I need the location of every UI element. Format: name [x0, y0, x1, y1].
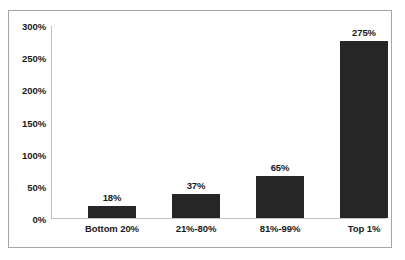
chart-screenshot: 0% 50% 100% 150% 200% 250% 300% 18% Bott… [0, 0, 405, 260]
y-tick-label-100: 100% [22, 149, 46, 160]
plot-area: 0% 50% 100% 150% 200% 250% 300% 18% Bott… [51, 26, 386, 219]
x-tick-label-21-80: 21%-80% [154, 223, 238, 234]
bar-group-21-80: 37% 21%-80% [154, 25, 238, 218]
x-tick-label-81-99: 81%-99% [238, 223, 322, 234]
bar-group-top-1: 275% Top 1% [322, 25, 405, 218]
bar-value-21-80: 37% [154, 180, 238, 191]
bar-21-80[interactable] [172, 194, 220, 218]
y-tick-label-150: 150% [22, 117, 46, 128]
bar-group-bottom-20: 18% Bottom 20% [70, 25, 154, 218]
y-tick-label-50: 50% [27, 181, 46, 192]
bar-value-bottom-20: 18% [70, 192, 154, 203]
bar-group-81-99: 65% 81%-99% [238, 25, 322, 218]
y-tick-label-200: 200% [22, 85, 46, 96]
x-tick-label-top-1: Top 1% [322, 223, 405, 234]
bar-value-81-99: 65% [238, 162, 322, 173]
bar-bottom-20[interactable] [88, 206, 136, 218]
bar-value-top-1: 275% [322, 27, 405, 38]
x-tick-label-bottom-20: Bottom 20% [70, 223, 154, 234]
y-tick-label-0: 0% [32, 214, 46, 225]
y-axis-line [51, 26, 52, 219]
bar-top-1[interactable] [340, 41, 388, 218]
bar-81-99[interactable] [256, 176, 304, 218]
chart-frame: 0% 50% 100% 150% 200% 250% 300% 18% Bott… [8, 10, 392, 248]
x-axis-line [51, 218, 386, 219]
y-tick-label-250: 250% [22, 53, 46, 64]
y-tick-label-300: 300% [22, 21, 46, 32]
